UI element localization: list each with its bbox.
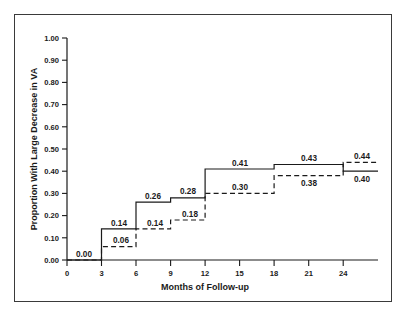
x-tick-label-24: 24 bbox=[339, 269, 348, 278]
y-tick-label-0.80: 0.80 bbox=[44, 78, 59, 87]
x-axis-ticks bbox=[67, 260, 343, 266]
label-solid-0.14: 0.14 bbox=[111, 219, 127, 228]
y-tick-label-0.30: 0.30 bbox=[44, 189, 59, 198]
y-tick-label-0.70: 0.70 bbox=[44, 100, 59, 109]
data-point-labels: 0.00 0.14 0.26 0.28 0.41 0.43 0.40 0.06 … bbox=[76, 152, 370, 259]
label-solid-0.26: 0.26 bbox=[145, 192, 161, 201]
x-tick-label-15: 15 bbox=[235, 269, 244, 278]
y-tick-label-0.90: 0.90 bbox=[44, 56, 59, 65]
y-tick-label-0.10: 0.10 bbox=[44, 234, 59, 243]
solid-step-curve bbox=[67, 165, 378, 261]
x-axis-tick-labels: 0 3 6 9 12 15 18 21 24 bbox=[65, 269, 348, 278]
label-solid-0.43: 0.43 bbox=[301, 154, 317, 163]
label-dashed-0.14: 0.14 bbox=[147, 219, 163, 228]
label-dashed-0.18: 0.18 bbox=[182, 210, 198, 219]
y-axis-title: Proportion With Large Decrease in VA bbox=[29, 67, 39, 230]
y-tick-label-0.00: 0.00 bbox=[44, 256, 59, 265]
label-dashed-0.44: 0.44 bbox=[354, 152, 370, 161]
label-dashed-0.06: 0.06 bbox=[113, 236, 129, 245]
kaplan-meier-step-chart: 1.00 0.90 0.80 0.70 0.60 0.50 0.40 0.30 … bbox=[0, 0, 408, 320]
x-tick-label-6: 6 bbox=[134, 269, 138, 278]
y-tick-label-0.60: 0.60 bbox=[44, 123, 59, 132]
label-solid-0.40: 0.40 bbox=[354, 175, 370, 184]
y-tick-label-1.00: 1.00 bbox=[44, 34, 59, 43]
x-tick-label-12: 12 bbox=[201, 269, 209, 278]
figure-container: 1.00 0.90 0.80 0.70 0.60 0.50 0.40 0.30 … bbox=[0, 0, 408, 320]
x-tick-label-0: 0 bbox=[65, 269, 69, 278]
y-tick-label-0.50: 0.50 bbox=[44, 145, 59, 154]
y-tick-label-0.20: 0.20 bbox=[44, 211, 59, 220]
y-axis-tick-labels: 1.00 0.90 0.80 0.70 0.60 0.50 0.40 0.30 … bbox=[44, 34, 59, 265]
y-axis-ticks bbox=[62, 38, 67, 260]
label-solid-0.41: 0.41 bbox=[232, 159, 248, 168]
y-tick-label-0.40: 0.40 bbox=[44, 167, 59, 176]
label-dashed-0.30: 0.30 bbox=[232, 183, 248, 192]
label-0.00-shared: 0.00 bbox=[76, 250, 92, 259]
x-axis-title: Months of Follow-up bbox=[161, 282, 249, 292]
label-solid-0.28: 0.28 bbox=[180, 187, 196, 196]
x-tick-label-18: 18 bbox=[270, 269, 278, 278]
x-tick-label-3: 3 bbox=[99, 269, 103, 278]
label-dashed-0.38: 0.38 bbox=[301, 179, 317, 188]
x-tick-label-9: 9 bbox=[168, 269, 172, 278]
dashed-step-curve bbox=[67, 162, 378, 260]
x-tick-label-21: 21 bbox=[304, 269, 313, 278]
